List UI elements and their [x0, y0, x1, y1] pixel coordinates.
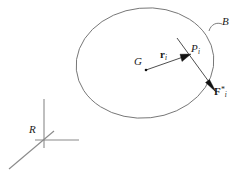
figure-canvas	[0, 0, 247, 175]
frame-diagonal-axis	[9, 131, 54, 169]
boundary-point-subscript: i	[198, 48, 200, 56]
reference-frame-label: R	[29, 124, 36, 135]
mass-center-point	[145, 69, 148, 72]
position-vector-subscript: i	[165, 54, 167, 62]
force-subscript: i	[225, 91, 227, 99]
body-label-leader-icon	[209, 23, 222, 31]
body-label: B	[222, 16, 229, 27]
force-symbol: F	[214, 85, 221, 97]
body-outline-ellipse	[71, 1, 220, 125]
boundary-point-label: Pi	[191, 43, 200, 54]
boundary-point-symbol: P	[191, 42, 198, 54]
reference-frame-axes	[9, 99, 79, 169]
mass-center-label: G	[134, 56, 142, 67]
position-vector-label: ri	[160, 49, 167, 60]
force-label: F*i	[214, 86, 227, 97]
position-vector-arrow	[146, 54, 191, 70]
